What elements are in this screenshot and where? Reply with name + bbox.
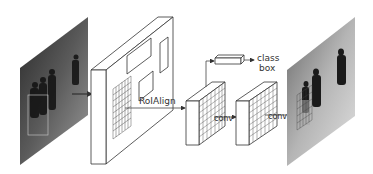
conv-label-2: conv — [268, 112, 287, 121]
output-image — [287, 17, 355, 166]
roialign-label: RoIAlign — [139, 96, 176, 106]
diagram-canvas: RoIAlign class box conv — [0, 0, 373, 174]
fc-head-box — [215, 55, 244, 64]
conv-label-1: conv — [214, 114, 233, 123]
input-image — [20, 17, 88, 165]
class-label: class — [257, 53, 280, 63]
feature-map-block — [91, 17, 173, 164]
box-label: box — [259, 63, 276, 73]
